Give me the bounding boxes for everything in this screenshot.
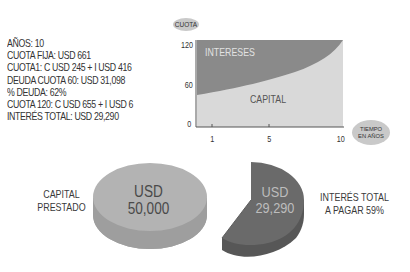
y-tick-label-60: 60 bbox=[185, 80, 193, 90]
pie-interes-value: USD 29,290 bbox=[255, 184, 294, 216]
y-axis-label: CUOTA bbox=[175, 21, 197, 28]
x-tick-label-1: 1 bbox=[210, 134, 214, 144]
y-axis-label-bubble: CUOTA bbox=[173, 18, 199, 31]
chart-graphics bbox=[0, 0, 410, 272]
capital-label: CAPITAL bbox=[250, 93, 286, 105]
x-tick-label-10: 10 bbox=[337, 134, 345, 144]
y-tick-label-120: 120 bbox=[181, 40, 193, 50]
pie-capital-value: USD 50,000 bbox=[128, 183, 170, 217]
y-tick-label-0: 0 bbox=[187, 119, 191, 129]
x-tick-label-5: 5 bbox=[267, 134, 271, 144]
pie-interes-caption: INTERÉS TOTAL A PAGAR 59% bbox=[320, 191, 389, 217]
pie-capital-caption: CAPITAL PRESTADO bbox=[37, 188, 85, 214]
intereses-label: INTERESES bbox=[205, 46, 255, 58]
x-axis-label: TIEMPO EN AÑOS bbox=[358, 126, 384, 139]
x-axis-label-bubble: TIEMPO EN AÑOS bbox=[352, 120, 390, 145]
